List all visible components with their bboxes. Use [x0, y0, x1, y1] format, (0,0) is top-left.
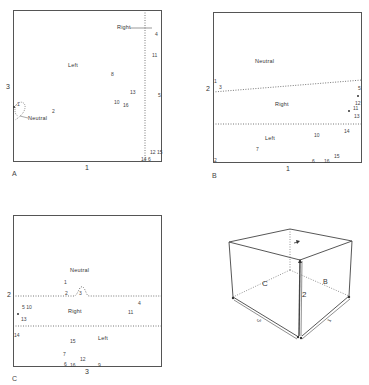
cube-label-right-face: B: [323, 278, 328, 285]
cube-label-left-face: C: [262, 280, 268, 288]
cube-label-bottom-left-edge: 3: [256, 319, 261, 322]
cube-label-front-height: 2: [302, 291, 306, 299]
cube-wireframe: [0, 0, 369, 385]
